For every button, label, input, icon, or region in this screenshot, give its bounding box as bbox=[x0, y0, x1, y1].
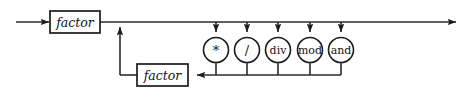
nonterminal-factor-main-label: factor bbox=[55, 15, 95, 30]
syntax-diagram-canvas: factor factor * / div mod bbox=[0, 0, 474, 96]
terminal-op-divide-label: / bbox=[245, 43, 250, 58]
terminal-op-and-label: and bbox=[331, 44, 352, 57]
terminal-op-times-label: * bbox=[213, 43, 220, 58]
railroad-diagram: factor factor * / div mod bbox=[0, 0, 474, 96]
terminal-op-mod-label: mod bbox=[298, 44, 322, 57]
nonterminal-factor-loop-label: factor bbox=[143, 68, 183, 83]
terminal-op-div-label: div bbox=[270, 44, 288, 57]
